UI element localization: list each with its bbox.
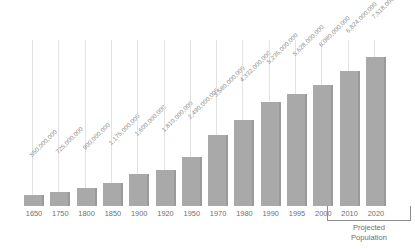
bar[interactable] [340,71,360,206]
chart-screenshot: 550,000,0001650725,000,0001750900,000,00… [0,0,415,249]
bar[interactable] [261,102,281,206]
bar[interactable] [287,94,307,206]
bar[interactable] [234,120,254,206]
bar[interactable] [366,57,386,206]
bar[interactable] [103,183,123,206]
bar[interactable] [208,135,228,206]
bar[interactable] [24,195,44,206]
bar[interactable] [129,174,149,206]
bar[interactable] [313,85,333,206]
leader-line [374,40,375,57]
projected-population-bracket [327,206,411,221]
leader-line [348,40,349,71]
leader-line [32,40,33,195]
leader-line [85,40,86,188]
projected-population-caption-line1: Projected [327,223,411,233]
leader-line [190,40,191,157]
leader-line [111,40,112,183]
bar[interactable] [77,188,97,206]
leader-line [269,40,270,102]
bar[interactable] [156,170,176,206]
leader-line [137,40,138,174]
bar[interactable] [182,157,202,206]
bar-value-label: 1,600,000,000 [133,103,167,137]
projected-population-caption-line2: Population [327,233,411,243]
bar[interactable] [50,192,70,206]
projected-population-caption: Projected Population [327,223,411,242]
leader-line [164,40,165,170]
leader-line [58,40,59,192]
